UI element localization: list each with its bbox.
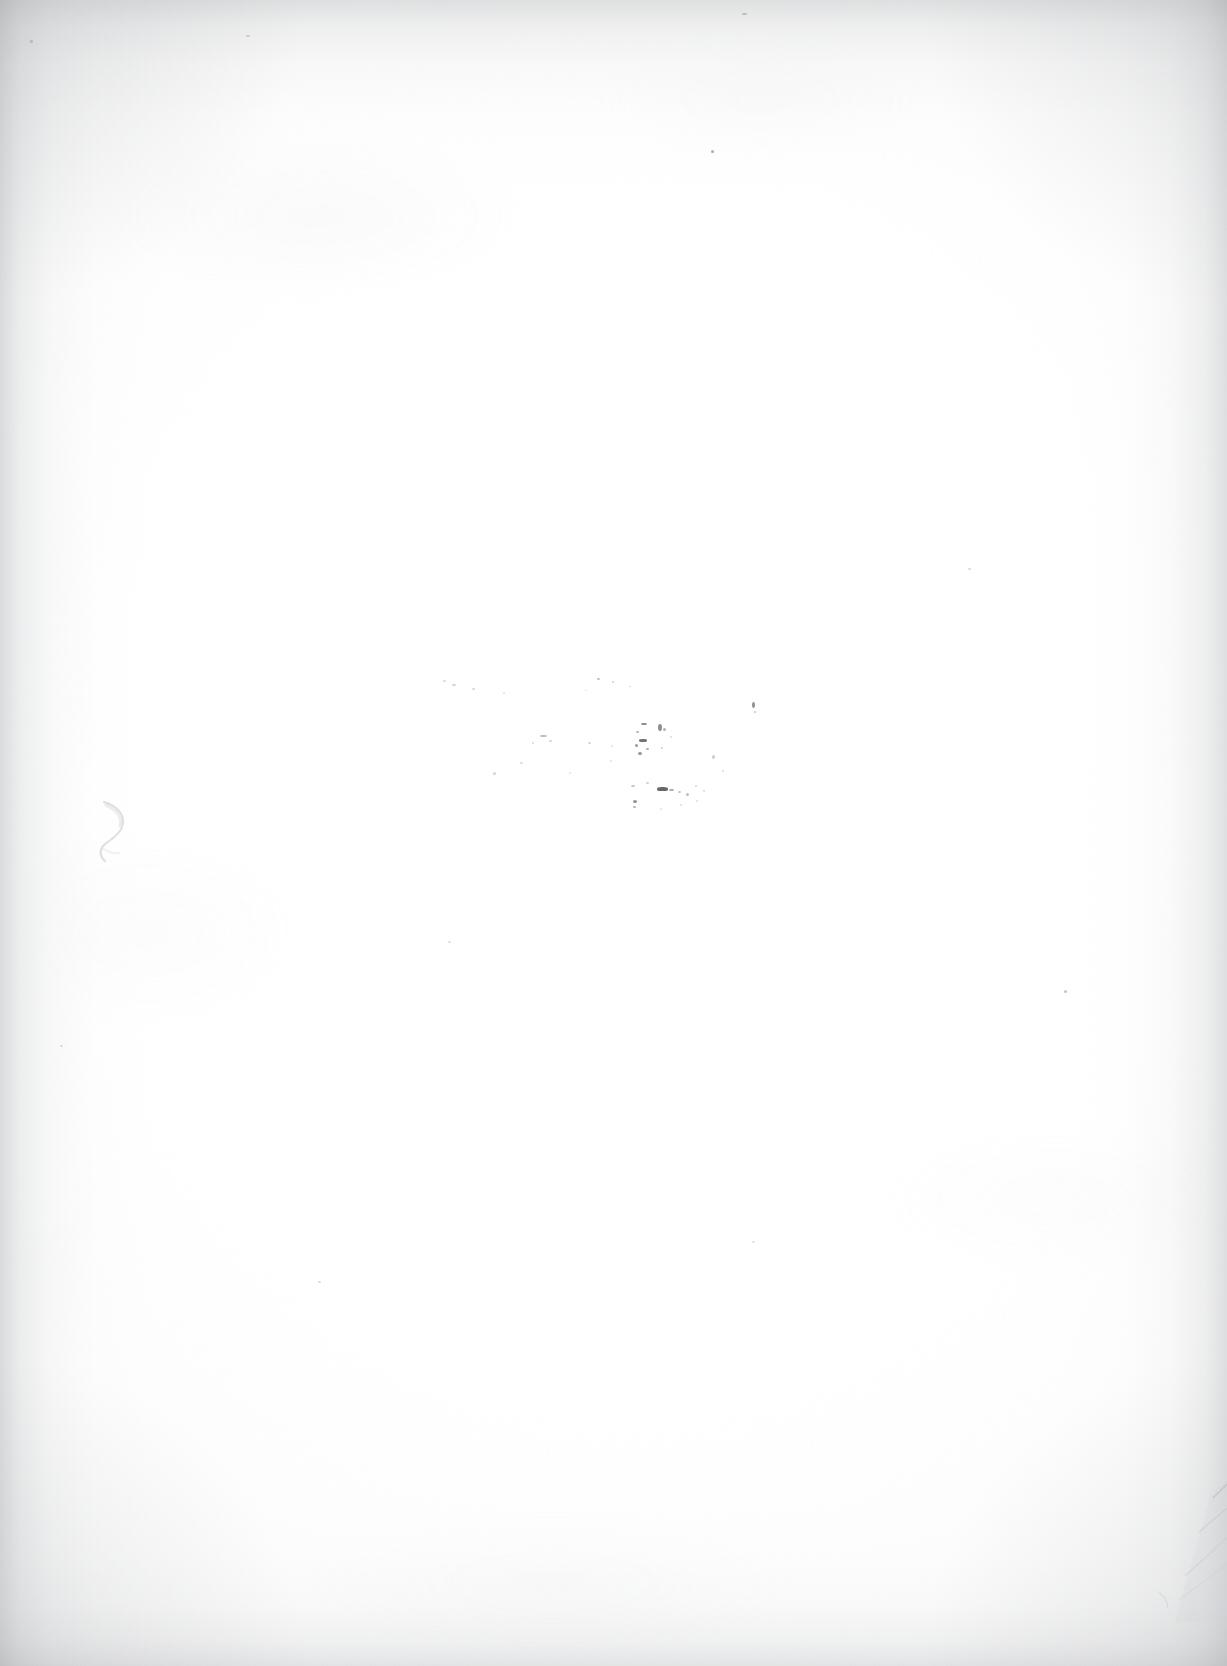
page-body-text	[150, 180, 1077, 1506]
scanned-page	[0, 0, 1227, 1666]
